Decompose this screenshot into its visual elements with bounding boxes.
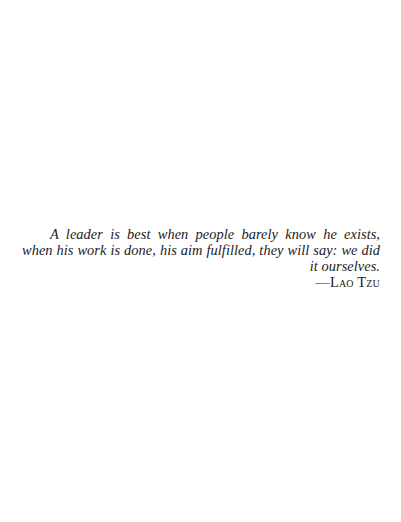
epigraph-quote: A leader is best when people barely know…	[22, 226, 380, 274]
epigraph: A leader is best when people barely know…	[22, 226, 380, 290]
epigraph-attribution: —Lao Tzu	[22, 274, 380, 290]
